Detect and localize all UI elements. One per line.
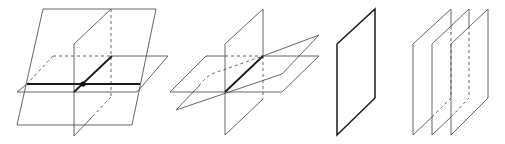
intersection-lines [27, 56, 140, 92]
panel-parallel-planes [413, 9, 488, 135]
intersection-point [80, 81, 85, 86]
vertical-plane [225, 9, 263, 135]
parallel-plane-2 [432, 9, 469, 135]
vertical-plane [74, 9, 111, 136]
panel-common-line [170, 9, 319, 135]
coincident-plane [337, 9, 375, 135]
panel-point-intersection [17, 9, 168, 136]
tilted-plane [17, 9, 156, 125]
planes-diagram [0, 0, 505, 144]
planes-figure [0, 0, 505, 144]
tilted-plane [176, 35, 319, 110]
parallel-plane-3 [451, 9, 488, 135]
panel-coincident-planes [337, 9, 375, 135]
